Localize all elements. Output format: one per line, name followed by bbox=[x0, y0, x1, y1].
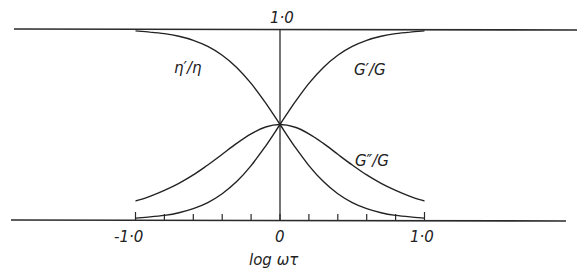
g-double-prime-ratio-label: G″/G bbox=[355, 152, 389, 170]
top-reference-line bbox=[14, 29, 577, 30]
g-prime-ratio-label: G′/G bbox=[354, 61, 386, 79]
x-axis-title: log ωτ bbox=[249, 251, 299, 269]
x-axis-line bbox=[11, 220, 566, 221]
x-tick-label-left: -1·0 bbox=[114, 228, 143, 246]
x-tick-label-center: 0 bbox=[275, 228, 285, 246]
x-tick-label-right: 1·0 bbox=[410, 228, 434, 246]
eta-ratio-label: η′/η bbox=[174, 59, 202, 77]
viscoelastic-chart: η′/η G′/G G″/G 1·0 -1·0 0 1·0 log ωτ bbox=[0, 0, 581, 277]
y-tick-label-top: 1·0 bbox=[270, 9, 294, 27]
